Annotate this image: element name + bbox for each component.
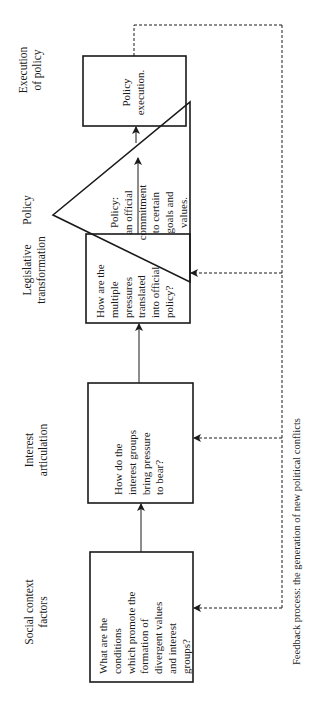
policy-definition: Policy: an official commitment to certai… <box>108 175 191 250</box>
stage-label-social-context: Social context factors <box>22 562 51 662</box>
feedback-caption: Feedback process: the generation of new … <box>290 418 303 665</box>
interest-articulation-question: How do the interest groups bring pressur… <box>112 385 167 495</box>
stage-label-interest-articulation: Interest articulation <box>22 410 51 490</box>
stage-label-policy: Policy <box>20 180 34 240</box>
execution-text: Policy execution. <box>120 60 148 125</box>
stage-label-execution: Execution of policy <box>16 30 45 110</box>
social-context-question: What are the conditions which promote th… <box>97 559 193 674</box>
